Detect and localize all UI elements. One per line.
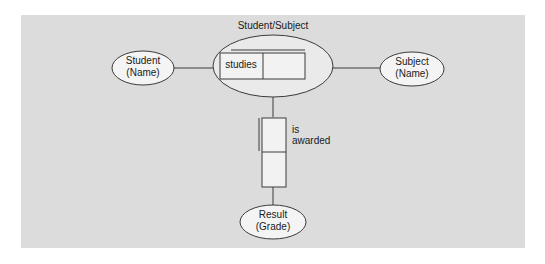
- awarded-label-line1: is: [292, 124, 299, 135]
- awarded-label-line2: awarded: [292, 135, 330, 146]
- aggregate-student-subject[interactable]: Student/Subject studies: [213, 20, 333, 97]
- result-attribute: (Grade): [256, 221, 290, 232]
- entity-result[interactable]: Result (Grade): [240, 205, 306, 239]
- relationship-is-awarded[interactable]: is awarded: [259, 118, 330, 187]
- subject-attribute: (Name): [395, 68, 428, 79]
- entity-subject[interactable]: Subject (Name): [380, 52, 444, 86]
- aggregate-title: Student/Subject: [238, 20, 309, 31]
- studies-label: studies: [225, 59, 257, 70]
- entity-student[interactable]: Student (Name): [112, 51, 174, 85]
- student-attribute: (Name): [126, 67, 159, 78]
- student-label: Student: [126, 55, 161, 66]
- subject-label: Subject: [395, 56, 429, 67]
- er-diagram: Student/Subject studies Student (Name) S…: [0, 0, 545, 264]
- result-label: Result: [259, 209, 288, 220]
